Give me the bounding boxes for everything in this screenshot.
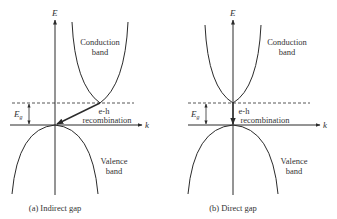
momentum-axis-label: k bbox=[323, 120, 328, 130]
gap-label: Eg bbox=[190, 109, 200, 120]
momentum-axis-label: k bbox=[145, 120, 150, 130]
band-diagram: E k Eg Conduction band e-h recombination… bbox=[0, 0, 337, 219]
recombination-label-2: recombination bbox=[82, 115, 132, 125]
conduction-band-label: Conduction bbox=[80, 37, 120, 47]
valence-band-label-2: band bbox=[106, 166, 123, 176]
conduction-band-label: Conduction bbox=[267, 37, 307, 47]
energy-axis-label: E bbox=[51, 8, 58, 18]
energy-axis-label: E bbox=[229, 8, 236, 18]
panel-indirect-gap: E k Eg Conduction band e-h recombination… bbox=[10, 8, 150, 213]
valence-band-label: Valence bbox=[281, 156, 308, 166]
gap-label: Eg bbox=[13, 109, 23, 120]
caption-indirect-gap: (a) Indirect gap bbox=[29, 203, 81, 213]
panel-direct-gap: E k Eg Conduction band e-h recombination… bbox=[188, 8, 328, 213]
conduction-band-label-2: band bbox=[92, 47, 109, 57]
caption-direct-gap: (b) Direct gap bbox=[209, 203, 257, 213]
conduction-band-label-2: band bbox=[279, 47, 296, 57]
valence-band-label: Valence bbox=[101, 156, 128, 166]
conduction-band-curve bbox=[72, 22, 128, 103]
recombination-label-2: recombination bbox=[240, 115, 290, 125]
valence-band-label-2: band bbox=[286, 166, 303, 176]
